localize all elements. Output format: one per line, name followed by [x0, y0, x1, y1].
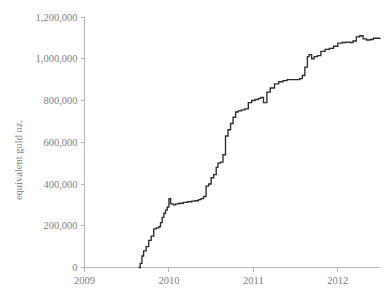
y-tick-label: 1,000,000 [36, 53, 78, 64]
y-axis-tick-labels: 0200,000400,000600,000800,0001,000,0001,… [36, 12, 78, 274]
y-tick-label: 0 [72, 262, 77, 273]
y-axis-title: equivalent gold oz. [13, 120, 24, 200]
x-tick-label: 2009 [74, 275, 95, 286]
x-axis-ticks [85, 268, 338, 272]
y-tick-label: 1,200,000 [36, 12, 78, 23]
data-series-line [139, 36, 380, 268]
x-tick-label: 2011 [243, 275, 264, 286]
y-tick-label: 400,000 [43, 179, 77, 190]
y-tick-label: 600,000 [43, 137, 77, 148]
y-axis-ticks [81, 17, 85, 268]
x-axis-tick-labels: 2009201020112012 [74, 275, 348, 286]
line-chart: 0200,000400,000600,000800,0001,000,0001,… [0, 0, 386, 295]
y-tick-label: 800,000 [43, 95, 77, 106]
y-tick-label: 200,000 [43, 220, 77, 231]
x-tick-label: 2012 [327, 275, 348, 286]
x-tick-label: 2010 [158, 275, 179, 286]
chart-container: 0200,000400,000600,000800,0001,000,0001,… [0, 0, 386, 295]
